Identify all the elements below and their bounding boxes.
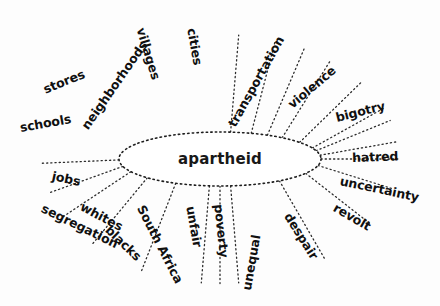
spoke-label-hatred: hatred — [352, 150, 399, 164]
word-web-diagram: apartheid schoolsstoresneighborhoodsvill… — [0, 0, 440, 306]
spoke-line — [231, 186, 239, 283]
